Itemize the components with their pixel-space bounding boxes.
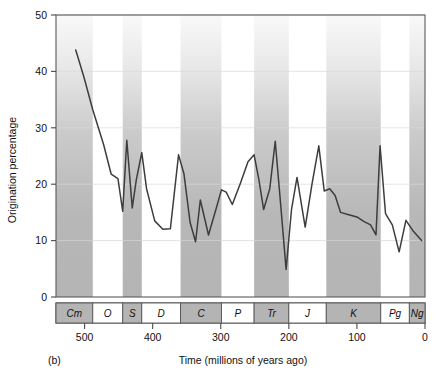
y-axis-ticks: 01020304050 — [35, 9, 56, 303]
period-label-tr: Tr — [267, 308, 276, 319]
period-label-p: P — [234, 308, 241, 319]
y-tick-label-50: 50 — [35, 9, 47, 21]
period-band-k — [326, 15, 380, 297]
x-axis-ticks: 5004003002001000 — [76, 323, 428, 343]
period-band-c — [181, 15, 222, 297]
period-label-j: J — [304, 308, 311, 319]
y-tick-label-20: 20 — [35, 178, 47, 190]
period-label-ng: Ng — [411, 308, 424, 319]
period-band-cm — [56, 15, 93, 297]
figure-panel-b: 01020304050 5004003002001000 CmOSDCPTrJK… — [0, 0, 439, 372]
x-tick-label-300: 300 — [212, 331, 230, 343]
period-label-d: D — [158, 308, 165, 319]
y-tick-label-0: 0 — [41, 291, 47, 303]
panel-label: (b) — [48, 354, 61, 366]
x-tick-label-100: 100 — [348, 331, 366, 343]
period-label-o: O — [104, 308, 112, 319]
period-band-tr — [254, 15, 289, 297]
chart-svg: 01020304050 5004003002001000 CmOSDCPTrJK… — [0, 0, 439, 372]
x-tick-label-500: 500 — [76, 331, 94, 343]
y-axis-title: Origination percentage — [6, 117, 18, 223]
y-tick-label-10: 10 — [35, 234, 47, 246]
x-tick-label-200: 200 — [280, 331, 298, 343]
geologic-period-bar: CmOSDCPTrJKPgNg — [56, 303, 425, 323]
period-shading-bands — [56, 15, 425, 297]
period-label-s: S — [129, 308, 136, 319]
x-tick-label-0: 0 — [422, 331, 428, 343]
period-label-cm: Cm — [67, 308, 83, 319]
y-tick-label-30: 30 — [35, 122, 47, 134]
y-tick-label-40: 40 — [35, 65, 47, 77]
period-label-pg: Pg — [389, 308, 402, 319]
period-label-c: C — [197, 308, 205, 319]
x-tick-label-400: 400 — [144, 331, 162, 343]
x-axis-title: Time (millions of years ago) — [179, 354, 308, 366]
period-band-ng — [409, 15, 425, 297]
